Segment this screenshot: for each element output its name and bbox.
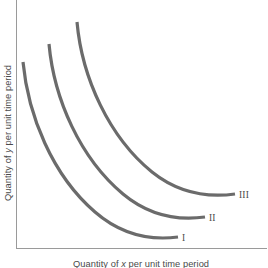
curve-label-ii: II bbox=[209, 213, 216, 223]
chart-canvas: I II III Quantity of y per unit time per… bbox=[0, 0, 268, 268]
x-axis-title: Quantity of x per unit time period bbox=[73, 259, 209, 268]
curve-label-iii: III bbox=[239, 190, 249, 200]
y-axis-title-prefix: Quantity of bbox=[3, 153, 13, 201]
y-axis-title: Quantity of y per unit time period bbox=[3, 65, 13, 201]
indifference-curve-ii bbox=[49, 44, 205, 218]
curve-label-i: I bbox=[182, 233, 185, 243]
indifference-curve-figure: I II III Quantity of y per unit time per… bbox=[0, 0, 268, 268]
axis-frame bbox=[17, 0, 268, 249]
x-axis-title-suffix: per unit time period bbox=[126, 259, 209, 268]
y-axis-title-suffix: per unit time period bbox=[3, 65, 13, 148]
x-axis-title-prefix: Quantity of bbox=[73, 259, 121, 268]
